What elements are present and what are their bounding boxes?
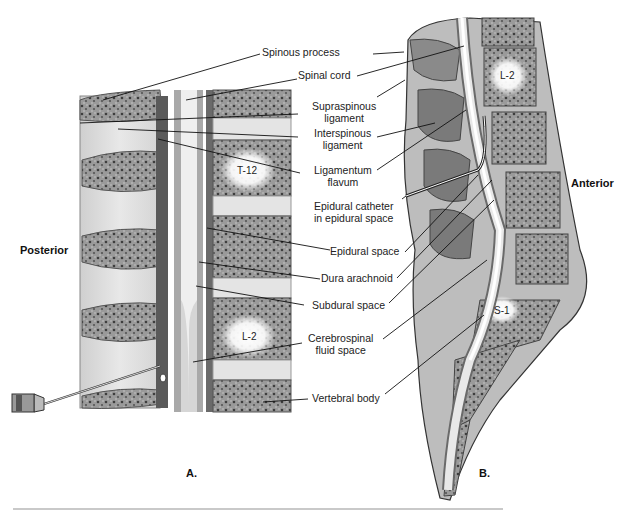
label-posterior: Posterior (20, 244, 68, 256)
panel-b (404, 18, 586, 500)
label-vertebral-body: Vertebral body (312, 392, 380, 404)
label-interspinous-ligament: Interspinous ligament (314, 127, 371, 151)
label-spinal-cord: Spinal cord (298, 69, 351, 81)
label-csf-space: Cerebrospinal fluid space (308, 332, 373, 356)
vertebra-label-l2-b: L-2 (500, 70, 514, 81)
label-dura-arachnoid: Dura arachnoid (321, 272, 393, 284)
spinal-anatomy-figure: Spinous process Spinal cord Supraspinous… (0, 0, 628, 514)
label-epidural-catheter: Epidural catheter in epidural space (314, 200, 393, 224)
label-anterior: Anterior (571, 177, 614, 189)
vertebral-bodies-a (213, 90, 291, 412)
label-supraspinous-ligament: Supraspinous ligament (312, 100, 376, 124)
vertebra-label-s1: S-1 (494, 305, 510, 316)
label-subdural-space: Subdural space (312, 299, 385, 311)
label-ligamentum-flavum: Ligamentum flavum (314, 164, 372, 188)
figure-bottom-rule (13, 508, 503, 510)
label-spinous-process: Spinous process (262, 46, 340, 58)
panel-label-b: B. (479, 467, 490, 479)
label-epidural-space: Epidural space (330, 245, 399, 257)
panel-label-a: A. (186, 467, 197, 479)
vertebra-label-t12: T-12 (237, 165, 257, 176)
vertebra-label-l2-a: L-2 (242, 331, 256, 342)
